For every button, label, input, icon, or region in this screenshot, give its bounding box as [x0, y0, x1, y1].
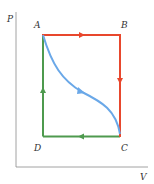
arrow-right-icon [79, 32, 85, 38]
pv-diagram: P V A B C D [0, 0, 154, 184]
arrow-up-icon [40, 87, 46, 93]
point-b-label: B [120, 20, 128, 30]
path-a-c-curve [43, 35, 120, 134]
y-axis-label: P [6, 14, 14, 24]
arrow-down-icon [117, 78, 123, 84]
arrow-left-icon [78, 134, 84, 140]
point-d-label: D [33, 143, 41, 153]
point-c-label: C [121, 143, 128, 153]
x-axis-label: V [140, 172, 148, 182]
arrow-curve-icon [77, 87, 85, 94]
point-a-label: A [33, 20, 41, 30]
